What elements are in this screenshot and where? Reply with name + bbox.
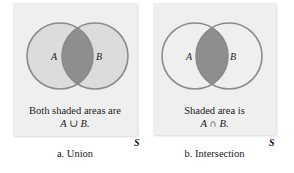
intersection-set-b-label: B [230, 51, 236, 62]
intersection-caption: Shaded area is A ∩ B. [153, 104, 276, 130]
intersection-caption-line1: Shaded area is [153, 104, 276, 117]
intersection-caption-line2: A ∩ B. [153, 117, 276, 130]
intersection-universe-label: S [269, 137, 275, 148]
intersection-set-a-label: A [185, 51, 193, 62]
intersection-panel-label: b. Intersection [153, 148, 276, 159]
